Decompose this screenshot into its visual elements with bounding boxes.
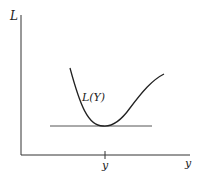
- x-axis-label: y: [184, 157, 192, 170]
- loss-diagram: L y y L(Y): [0, 0, 201, 178]
- y-axis-label: L: [9, 9, 18, 23]
- x-tick-label: y: [101, 159, 109, 172]
- curve-label: L(Y): [81, 91, 105, 104]
